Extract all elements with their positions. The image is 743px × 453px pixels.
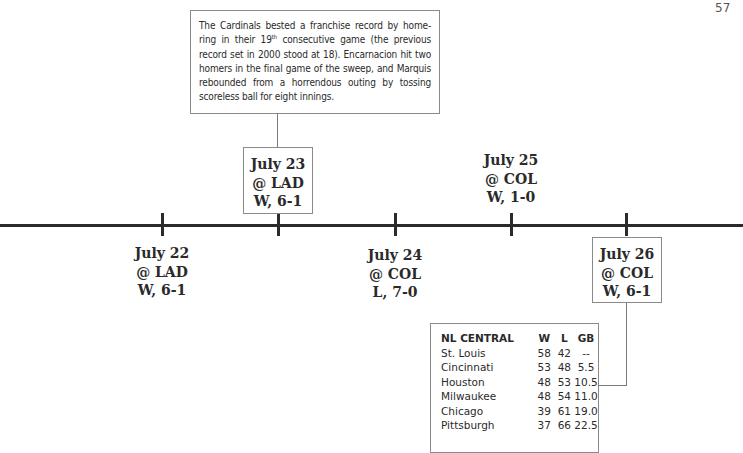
team-wins: 37	[534, 418, 555, 433]
standings-row: Cincinnati 53 48 5.5	[441, 360, 598, 375]
game-result: W, 6-1	[244, 192, 312, 211]
tick-july-24	[394, 213, 397, 236]
note-connector-line	[277, 113, 278, 147]
team-wins: 48	[534, 389, 555, 404]
game-july-26: July 26 @ COL W, 6-1	[592, 237, 662, 303]
standings-row: Houston 48 53 10.5	[441, 375, 598, 390]
game-date: July 24	[350, 246, 440, 265]
timeline-axis	[0, 224, 743, 227]
team-name: Chicago	[441, 404, 534, 419]
team-wins: 48	[534, 375, 555, 390]
game-date: July 26	[593, 245, 661, 264]
game-date: July 23	[244, 155, 312, 174]
team-losses: 53	[555, 375, 574, 390]
standings-row: Chicago 39 61 19.0	[441, 404, 598, 419]
tick-july-23	[277, 213, 280, 236]
standings-row: Pittsburgh 37 66 22.5	[441, 418, 598, 433]
game-note-callout: The Cardinals bested a franchise record …	[190, 10, 440, 114]
game-result: W, 1-0	[466, 188, 556, 207]
team-losses: 42	[555, 346, 574, 361]
team-wins: 53	[534, 360, 555, 375]
header-wins: W	[534, 331, 555, 346]
team-wins: 39	[534, 404, 555, 419]
game-opponent: @ LAD	[117, 263, 207, 282]
game-opponent: @ LAD	[244, 174, 312, 193]
team-losses: 48	[555, 360, 574, 375]
header-games-back: GB	[574, 331, 598, 346]
game-date: July 22	[117, 244, 207, 263]
team-name: Pittsburgh	[441, 418, 534, 433]
team-games-back: 10.5	[574, 375, 598, 390]
game-opponent: @ COL	[466, 170, 556, 189]
team-name: Milwaukee	[441, 389, 534, 404]
tick-july-26	[625, 213, 628, 236]
team-name: Houston	[441, 375, 534, 390]
game-opponent: @ COL	[350, 265, 440, 284]
team-games-back: 5.5	[574, 360, 598, 375]
game-result: W, 6-1	[593, 282, 661, 301]
game-july-24: July 24 @ COL L, 7-0	[350, 246, 440, 302]
standings-row: St. Louis 58 42 --	[441, 346, 598, 361]
standings-header-row: NL CENTRAL W L GB	[441, 331, 598, 346]
team-wins: 58	[534, 346, 555, 361]
team-games-back: --	[574, 346, 598, 361]
game-july-22: July 22 @ LAD W, 6-1	[117, 244, 207, 300]
standings-connector-vertical	[626, 303, 627, 386]
team-games-back: 22.5	[574, 418, 598, 433]
team-games-back: 19.0	[574, 404, 598, 419]
game-result: L, 7-0	[350, 283, 440, 302]
game-date: July 25	[466, 151, 556, 170]
nl-central-standings: NL CENTRAL W L GB St. Louis 58 42 -- Cin…	[430, 323, 599, 453]
game-july-23: July 23 @ LAD W, 6-1	[243, 147, 313, 214]
page-number: 57	[715, 1, 730, 15]
team-games-back: 11.0	[574, 389, 598, 404]
team-losses: 66	[555, 418, 574, 433]
team-losses: 61	[555, 404, 574, 419]
team-losses: 54	[555, 389, 574, 404]
standings-table: NL CENTRAL W L GB St. Louis 58 42 -- Cin…	[441, 331, 598, 433]
standings-row: Milwaukee 48 54 11.0	[441, 389, 598, 404]
team-name: Cincinnati	[441, 360, 534, 375]
team-name: St. Louis	[441, 346, 534, 361]
game-opponent: @ COL	[593, 264, 661, 283]
header-losses: L	[555, 331, 574, 346]
game-july-25: July 25 @ COL W, 1-0	[466, 151, 556, 207]
standings-connector-horizontal	[599, 385, 627, 386]
game-result: W, 6-1	[117, 281, 207, 300]
header-division: NL CENTRAL	[441, 331, 534, 346]
tick-july-22	[161, 213, 164, 236]
tick-july-25	[510, 213, 513, 236]
